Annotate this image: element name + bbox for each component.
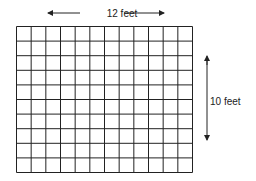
height-label: 10 feet — [210, 96, 241, 107]
width-dimension: 12 feet — [48, 8, 164, 19]
area-grid-diagram: 12 feet 10 feet — [0, 0, 256, 181]
height-dimension: 10 feet — [207, 56, 241, 140]
grid — [17, 27, 193, 173]
